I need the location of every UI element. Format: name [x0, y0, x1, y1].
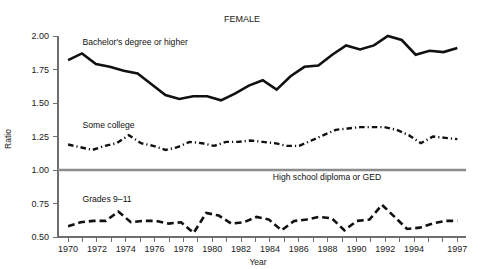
y-tick-label: 1.75	[31, 65, 49, 75]
y-tick-label: 1.50	[31, 98, 49, 108]
series-line-1	[68, 127, 457, 150]
y-axis: 0.500.751.001.251.501.752.00	[31, 31, 58, 242]
x-axis: 1970197219741976197819801982198419861988…	[58, 237, 467, 254]
y-tick-label: 1.25	[31, 132, 49, 142]
x-tick-label: 1976	[145, 244, 165, 254]
y-tick-label: 0.50	[31, 232, 49, 242]
x-tick-label: 1997	[447, 244, 467, 254]
series-labels: Bachelor's degree or higherSome collegeH…	[83, 37, 382, 204]
chart-title: FEMALE	[224, 14, 260, 24]
x-tick-label: 1986	[289, 244, 309, 254]
y-tick-label: 2.00	[31, 31, 49, 41]
y-tick-label: 0.75	[31, 199, 49, 209]
series-label-0: Bachelor's degree or higher	[83, 37, 188, 47]
x-tick-label: 1972	[87, 244, 107, 254]
series-label-1: Some college	[83, 120, 135, 130]
x-tick-label: 1992	[375, 244, 395, 254]
series-label-3: Grades 9–11	[83, 194, 132, 204]
x-tick-label: 1982	[231, 244, 251, 254]
x-tick-label: 1988	[318, 244, 338, 254]
y-axis-title: Ratio	[3, 129, 13, 149]
series-line-3	[68, 205, 457, 233]
x-tick-label: 1990	[346, 244, 366, 254]
x-tick-label: 1970	[58, 244, 78, 254]
x-tick-label: 1980	[202, 244, 222, 254]
chart-container: FEMALE Ratio Year 0.500.751.001.251.501.…	[0, 0, 484, 269]
x-tick-label: 1974	[116, 244, 136, 254]
line-chart: FEMALE Ratio Year 0.500.751.001.251.501.…	[0, 0, 484, 269]
x-axis-title: Year	[249, 257, 266, 267]
y-tick-label: 1.00	[31, 165, 49, 175]
x-tick-label: 1978	[173, 244, 193, 254]
x-tick-label: 1994	[404, 244, 424, 254]
x-tick-label: 1984	[260, 244, 280, 254]
series-label-2: High school diploma or GED	[273, 172, 381, 182]
